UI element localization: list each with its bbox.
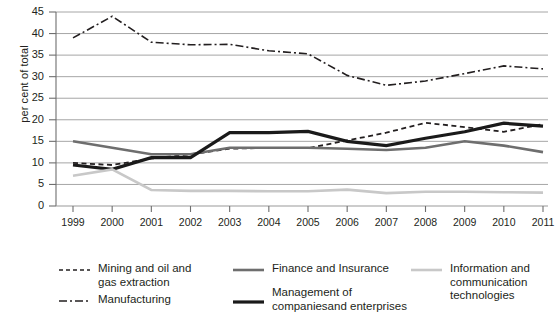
series-line: [73, 141, 543, 154]
legend-swatch-ict-solid-icon: [410, 263, 443, 277]
y-tick-label: 45: [20, 5, 44, 17]
x-tick-label: 2006: [327, 216, 367, 228]
y-tick-label: 15: [20, 134, 44, 146]
legend-swatch-management-solid-icon: [232, 295, 265, 309]
y-tick-label: 5: [20, 177, 44, 189]
x-tick-label: 2000: [92, 216, 132, 228]
x-tick-label: 2009: [445, 216, 485, 228]
legend-swatch-mining-dashed-icon: [58, 263, 91, 277]
series-line: [73, 16, 543, 85]
legend-label-finance: Finance and Insurance: [272, 262, 389, 276]
legend-label-ict: Information and communication technologi…: [450, 262, 530, 303]
legend-item-finance: Finance and Insurance: [232, 262, 389, 277]
x-tick-label: 2007: [366, 216, 406, 228]
y-axis-ticks: [49, 12, 56, 206]
y-tick-label: 35: [20, 48, 44, 60]
legend-item-management: Management of companiesand enterprises: [232, 286, 407, 313]
y-tick-label: 20: [20, 113, 44, 125]
y-tick-label: 0: [20, 199, 44, 211]
legend-swatch-manufacturing-dashdot-icon: [58, 294, 91, 308]
x-tick-label: 1999: [53, 216, 93, 228]
y-tick-label: 40: [20, 27, 44, 39]
x-tick-label: 2004: [249, 216, 289, 228]
y-tick-label: 25: [20, 91, 44, 103]
legend-label-mining: Mining and oil and gas extraction: [98, 262, 191, 289]
legend-label-manufacturing: Manufacturing: [98, 293, 171, 307]
legend-item-manufacturing: Manufacturing: [58, 293, 171, 308]
gridlines: [56, 12, 548, 184]
series-line: [73, 169, 543, 193]
x-tick-label: 2010: [484, 216, 524, 228]
y-tick-label: 30: [20, 70, 44, 82]
x-tick-label: 2005: [288, 216, 328, 228]
chart-canvas: [0, 0, 554, 250]
legend-item-mining: Mining and oil and gas extraction: [58, 262, 191, 289]
x-tick-label: 2003: [210, 216, 250, 228]
legend-label-management: Management of companiesand enterprises: [272, 286, 407, 313]
plot-area: per cent of total 051015202530354045 199…: [0, 0, 554, 250]
chart-legend: Mining and oil and gas extraction Manufa…: [0, 258, 554, 327]
legend-swatch-finance-solid-icon: [232, 263, 265, 277]
x-tick-label: 2002: [171, 216, 211, 228]
axis-lines: [56, 12, 548, 206]
legend-item-ict: Information and communication technologi…: [410, 262, 530, 303]
x-tick-label: 2011: [523, 216, 559, 228]
x-tick-label: 2008: [406, 216, 446, 228]
x-axis-ticks: [73, 206, 543, 212]
data-series-group: [73, 16, 543, 193]
y-tick-label: 10: [20, 156, 44, 168]
x-tick-label: 2001: [131, 216, 171, 228]
